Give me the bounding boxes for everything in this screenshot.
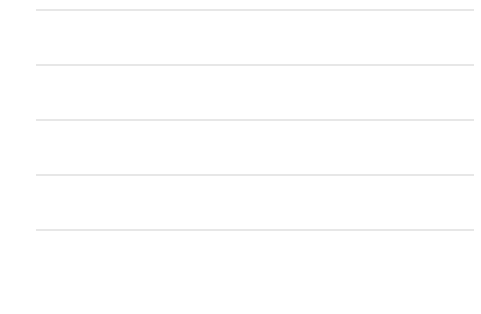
line-chart [0, 0, 481, 314]
gridlines [36, 10, 474, 230]
chart-canvas [0, 0, 481, 314]
